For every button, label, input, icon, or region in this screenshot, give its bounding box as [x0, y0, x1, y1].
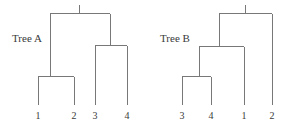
tree-comparison-canvas: Tree A 1 2 3 4 Tree B	[0, 0, 284, 128]
tree-a-panel: Tree A 1 2 3 4	[12, 5, 130, 121]
tree-a-title: Tree A	[12, 32, 42, 44]
tree-b-leaf-label-1: 1	[242, 110, 247, 121]
tree-a-leaf-label-2: 2	[72, 110, 77, 121]
tree-b-title: Tree B	[160, 32, 190, 44]
tree-b-leaf-label-2: 2	[270, 110, 275, 121]
tree-b-panel: Tree B 3 4 1 2	[160, 5, 275, 121]
tree-b-leaf-label-3: 3	[180, 110, 185, 121]
tree-a-leaf-label-1: 1	[36, 110, 41, 121]
tree-a-leaf-label-3: 3	[93, 110, 98, 121]
phylogenetic-tree-figure: Tree A 1 2 3 4 Tree B	[0, 0, 284, 128]
tree-b-leaf-label-4: 4	[209, 110, 214, 121]
tree-a-leaf-label-4: 4	[125, 110, 130, 121]
